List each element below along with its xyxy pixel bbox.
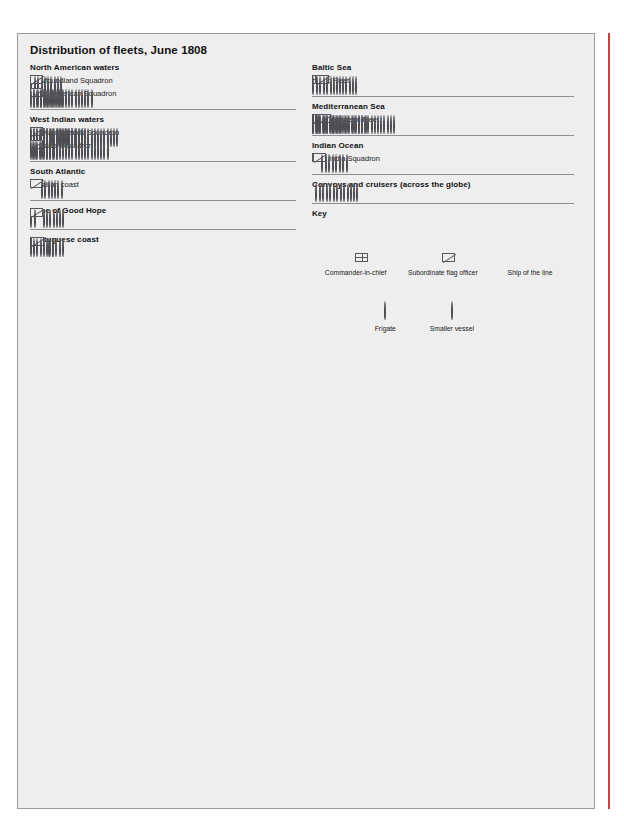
frigate-icon bbox=[55, 238, 57, 257]
frigate-icon bbox=[321, 154, 323, 173]
smaller-vessel-icon bbox=[312, 115, 314, 134]
fleet-block: Mediterranean Fleet bbox=[312, 115, 574, 125]
key-item: Ship of the line bbox=[486, 228, 573, 276]
vessel-marker bbox=[384, 302, 386, 320]
key-label: Subordinate flag officer bbox=[408, 269, 478, 276]
smaller-vessel-icon bbox=[75, 89, 77, 108]
frigate-icon bbox=[328, 154, 330, 173]
smaller-vessel-icon bbox=[40, 141, 42, 160]
smaller-vessel-icon bbox=[65, 141, 67, 160]
frigate-icon bbox=[319, 76, 321, 95]
smaller-vessel-icon bbox=[361, 115, 363, 134]
smaller-vessel-icon bbox=[113, 128, 115, 147]
smaller-vessel-icon bbox=[59, 141, 61, 160]
smaller-vessel-icon bbox=[374, 115, 376, 134]
smaller-vessel-icon bbox=[61, 180, 63, 199]
smaller-vessel-icon bbox=[377, 115, 379, 134]
smaller-vessel-icon bbox=[342, 115, 344, 134]
smaller-vessel-icon bbox=[110, 128, 112, 147]
smaller-vessel-icon bbox=[355, 115, 357, 134]
smaller-vessel-icon bbox=[62, 89, 64, 108]
smaller-vessel-icon bbox=[56, 141, 58, 160]
smaller-vessel-icon bbox=[322, 115, 324, 134]
subordinate-flag-officer-flag-icon bbox=[30, 208, 43, 217]
smaller-vessel-icon bbox=[46, 238, 48, 257]
fleet-block: Baltic Fleet bbox=[312, 76, 574, 86]
frigate-icon bbox=[343, 183, 345, 202]
frigate-icon bbox=[384, 301, 386, 320]
smaller-vessel-icon bbox=[56, 209, 58, 228]
frigate-icon bbox=[335, 154, 337, 173]
frigate-icon bbox=[333, 183, 335, 202]
frigate-icon bbox=[323, 76, 325, 95]
region-title: Portuguese coast bbox=[30, 235, 296, 244]
smaller-vessel-icon bbox=[43, 209, 45, 228]
smaller-vessel-icon bbox=[336, 115, 338, 134]
region-title: Indian Ocean bbox=[312, 141, 574, 150]
frigate-icon bbox=[59, 238, 61, 257]
frigate-icon bbox=[326, 76, 328, 95]
key-item: Frigate bbox=[352, 284, 419, 332]
key-item: Smaller vessel bbox=[419, 284, 486, 332]
smaller-vessel-icon bbox=[75, 141, 77, 160]
key-block: KeyCommander-in-chiefSubordinate flag of… bbox=[312, 203, 574, 336]
key-item: Subordinate flag officer bbox=[399, 228, 486, 276]
smaller-vessel-icon bbox=[390, 115, 392, 134]
smaller-vessel-icon bbox=[30, 141, 32, 160]
region-title: Baltic Sea bbox=[312, 63, 574, 72]
smaller-vessel-icon bbox=[353, 183, 355, 202]
smaller-vessel-icon bbox=[78, 141, 80, 160]
smaller-vessel-icon bbox=[62, 141, 64, 160]
smaller-vessel-icon bbox=[40, 89, 42, 108]
smaller-vessel-icon bbox=[56, 89, 58, 108]
commander-in-chief-flag-icon bbox=[355, 253, 368, 262]
smaller-vessel-icon bbox=[91, 89, 93, 108]
smaller-vessel-icon bbox=[30, 238, 32, 257]
smaller-vessel-icon bbox=[81, 141, 83, 160]
fleet-block: Newfoundland Squadron bbox=[30, 76, 296, 86]
key-glyph bbox=[451, 284, 453, 320]
smaller-vessel-icon bbox=[43, 89, 45, 108]
frigate-icon bbox=[44, 180, 46, 199]
region-title: South Atlantic bbox=[30, 167, 296, 176]
smaller-vessel-icon bbox=[350, 183, 352, 202]
smaller-vessel-icon bbox=[91, 141, 93, 160]
smaller-vessel-icon bbox=[451, 301, 453, 320]
smaller-vessel-icon bbox=[356, 183, 358, 202]
smaller-vessel-icon bbox=[352, 76, 354, 95]
frigate-icon bbox=[326, 183, 328, 202]
smaller-vessel-icon bbox=[107, 141, 109, 160]
smaller-vessel-icon bbox=[40, 238, 42, 257]
frigate-icon bbox=[48, 180, 50, 199]
accent-rule bbox=[608, 33, 610, 809]
fleet-name: Brazilian coast bbox=[30, 180, 296, 189]
smaller-vessel-icon bbox=[46, 141, 48, 160]
region-title: West Indian waters bbox=[30, 115, 296, 124]
region-block: Mediterranean SeaMediterranean Fleet bbox=[312, 96, 574, 131]
smaller-vessel-icon bbox=[43, 141, 45, 160]
left-column: North American watersNewfoundland Squadr… bbox=[30, 63, 302, 336]
frigate-icon bbox=[325, 154, 327, 173]
region-block: West Indian watersLeeward Islands Squadr… bbox=[30, 109, 296, 157]
smaller-vessel-icon bbox=[333, 76, 335, 95]
smaller-vessel-icon bbox=[46, 89, 48, 108]
frigate-icon bbox=[312, 76, 314, 95]
key-heading: Key bbox=[312, 209, 574, 218]
fleet-name: Newfoundland Squadron bbox=[30, 76, 296, 85]
frigate-icon bbox=[316, 76, 318, 95]
region-title: Mediterranean Sea bbox=[312, 102, 574, 111]
key-item: Commander-in-chief bbox=[312, 228, 399, 276]
frigate-icon bbox=[62, 238, 64, 257]
infographic-page: Distribution of fleets, June 1808 North … bbox=[0, 0, 624, 838]
frigate-icon bbox=[336, 183, 338, 202]
region-block: Cape of Good Hope bbox=[30, 200, 296, 225]
frigate-icon bbox=[315, 183, 317, 202]
smaller-vessel-icon bbox=[97, 141, 99, 160]
smaller-vessel-icon bbox=[30, 89, 32, 108]
frigate-icon bbox=[342, 154, 344, 173]
columns-container: North American watersNewfoundland Squadr… bbox=[30, 63, 582, 336]
fleet-name: East India Squadron bbox=[312, 154, 574, 163]
smaller-vessel-icon bbox=[330, 76, 332, 95]
frigate-icon bbox=[34, 209, 36, 228]
fleet-block: North American Squadron bbox=[30, 89, 296, 99]
